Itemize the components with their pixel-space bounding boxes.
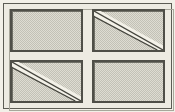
- diagonal-edge-upper: [12, 62, 81, 101]
- outer-frame: [0, 0, 175, 112]
- panel-top-right[interactable]: [92, 9, 165, 52]
- diagonal-stripe-icon: [12, 62, 81, 101]
- panel-inner-shadow: [94, 62, 163, 101]
- panel-top-left[interactable]: [10, 9, 83, 52]
- diagonal-stripe-icon: [94, 11, 163, 50]
- diagonal-edge-lower: [12, 67, 75, 101]
- panel-bottom-right[interactable]: [92, 60, 165, 103]
- panel-inner-shadow: [12, 11, 81, 50]
- diagonal-edge-upper: [94, 11, 163, 50]
- diagonal-edge-lower: [94, 16, 157, 50]
- panel-grid: [10, 9, 165, 103]
- panel-bottom-left[interactable]: [10, 60, 83, 103]
- panel-grid-diagram: [0, 0, 175, 112]
